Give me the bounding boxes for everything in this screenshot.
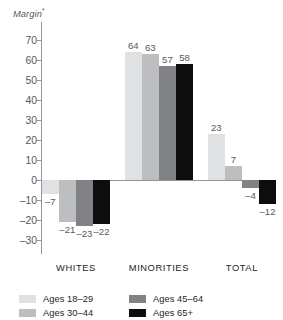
bar bbox=[42, 180, 59, 194]
bar-value-label: –12 bbox=[260, 206, 276, 217]
y-axis-tickmark bbox=[37, 40, 41, 41]
category-label: TOTAL bbox=[226, 262, 258, 273]
legend-item-label: Ages 45–64 bbox=[153, 294, 203, 304]
y-axis-tick-label: 40 bbox=[11, 95, 37, 106]
y-axis-tickmark bbox=[37, 140, 41, 141]
legend-item-ages-30-44: Ages 30–44 bbox=[19, 308, 129, 318]
bar bbox=[225, 166, 242, 180]
bar-value-label: 57 bbox=[162, 54, 173, 65]
bar-value-label: 63 bbox=[145, 42, 156, 53]
y-axis-tick-label: 60 bbox=[11, 55, 37, 66]
y-axis-tickmark bbox=[37, 160, 41, 161]
bar bbox=[208, 134, 225, 180]
category-label: MINORITIES bbox=[129, 262, 189, 273]
y-axis-labels: 706050403020100–10–20–30 bbox=[5, 22, 37, 254]
legend: Ages 18–29 Ages 45–64 Ages 30–44 Ages 65… bbox=[19, 292, 269, 320]
bar bbox=[176, 64, 193, 180]
y-axis-tick-label: –20 bbox=[11, 215, 37, 226]
y-axis-tick-label: 20 bbox=[11, 135, 37, 146]
y-axis-tick-label: 30 bbox=[11, 115, 37, 126]
y-axis-tick-label: 0 bbox=[11, 175, 37, 186]
footnote-marker: * bbox=[42, 7, 45, 14]
y-axis-tickmark bbox=[37, 100, 41, 101]
bar-value-label: 23 bbox=[211, 122, 222, 133]
y-axis-tickmark bbox=[37, 60, 41, 61]
bar bbox=[142, 54, 159, 180]
y-axis-tick-label: 10 bbox=[11, 155, 37, 166]
bar bbox=[76, 180, 93, 226]
bar bbox=[259, 180, 276, 204]
bar-value-label: –21 bbox=[59, 224, 75, 235]
bar-value-label: –4 bbox=[245, 190, 256, 201]
legend-swatch-icon bbox=[129, 309, 146, 317]
y-axis-tickmark bbox=[37, 120, 41, 121]
y-axis-tickmark bbox=[37, 80, 41, 81]
legend-row: Ages 30–44 Ages 65+ bbox=[19, 306, 269, 320]
bar bbox=[242, 180, 259, 188]
bar-value-label: –22 bbox=[94, 226, 110, 237]
legend-item-ages-18-29: Ages 18–29 bbox=[19, 294, 129, 304]
bar-value-label: –23 bbox=[76, 228, 92, 239]
legend-swatch-icon bbox=[19, 309, 36, 317]
bar-value-label: 7 bbox=[231, 154, 236, 165]
margin-bar-chart: Margin* 706050403020100–10–20–30 –7–21–2… bbox=[0, 0, 283, 320]
bar-value-label: 64 bbox=[128, 40, 139, 51]
y-axis-tickmark bbox=[37, 200, 41, 201]
bar-value-label: –7 bbox=[45, 196, 56, 207]
legend-swatch-icon bbox=[19, 295, 36, 303]
legend-item-label: Ages 30–44 bbox=[43, 308, 93, 318]
bar bbox=[59, 180, 76, 222]
legend-item-ages-45-64: Ages 45–64 bbox=[129, 294, 203, 304]
y-axis-caption: Margin* bbox=[13, 7, 45, 19]
chart-title-clipped bbox=[12, 0, 252, 3]
y-axis-tickmark bbox=[37, 240, 41, 241]
legend-swatch-icon bbox=[129, 295, 146, 303]
legend-item-ages-65-plus: Ages 65+ bbox=[129, 308, 193, 318]
y-axis-tickmark bbox=[37, 220, 41, 221]
y-axis-tick-label: 50 bbox=[11, 75, 37, 86]
plot-area: 706050403020100–10–20–30 –7–21–23–226463… bbox=[0, 22, 283, 254]
y-axis-tick-label: –10 bbox=[11, 195, 37, 206]
y-axis-spine bbox=[41, 22, 42, 254]
legend-item-label: Ages 18–29 bbox=[43, 294, 93, 304]
y-axis-caption-text: Margin bbox=[13, 9, 42, 19]
y-axis-tick-label: 70 bbox=[11, 35, 37, 46]
category-label: WHITES bbox=[56, 262, 96, 273]
bar bbox=[159, 66, 176, 180]
bar-value-label: 58 bbox=[179, 52, 190, 63]
legend-row: Ages 18–29 Ages 45–64 bbox=[19, 292, 269, 306]
y-axis-tick-label: –30 bbox=[11, 235, 37, 246]
bar bbox=[93, 180, 110, 224]
bar bbox=[125, 52, 142, 180]
legend-item-label: Ages 65+ bbox=[153, 308, 193, 318]
